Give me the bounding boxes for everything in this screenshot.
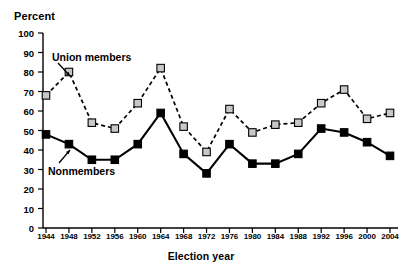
y-axis-tick-60: 60 <box>8 106 34 117</box>
chart-figure: Percent 0102030405060708090100 194419481… <box>0 0 402 274</box>
x-axis-tick-1952: 1952 <box>83 232 100 241</box>
data-point-nonmembers-2000 <box>363 138 371 146</box>
data-point-nonmembers-1960 <box>134 140 142 148</box>
data-point-union-members-1988 <box>295 119 303 127</box>
y-axis-title: Percent <box>14 10 55 22</box>
data-point-union-members-2000 <box>363 115 371 123</box>
x-axis-tick-1984: 1984 <box>267 232 284 241</box>
y-axis-tick-70: 70 <box>8 86 34 97</box>
x-axis-tick-1972: 1972 <box>198 232 215 241</box>
data-point-nonmembers-1976 <box>226 140 234 148</box>
data-point-nonmembers-1956 <box>111 156 119 164</box>
x-axis-tick-1980: 1980 <box>244 232 261 241</box>
y-axis-tick-40: 40 <box>8 145 34 156</box>
data-point-nonmembers-1964 <box>157 109 165 117</box>
y-axis-tick-10: 10 <box>8 203 34 214</box>
data-point-union-members-1972 <box>203 148 211 156</box>
y-axis-tick-30: 30 <box>8 164 34 175</box>
y-axis-tick-100: 100 <box>8 28 34 39</box>
data-point-nonmembers-1996 <box>340 129 348 137</box>
data-point-union-members-1996 <box>340 86 348 94</box>
x-axis-tick-1960: 1960 <box>129 232 146 241</box>
x-axis-tick-1956: 1956 <box>106 232 123 241</box>
annotation-union-members: Union members <box>52 51 131 63</box>
data-point-union-members-1992 <box>317 99 325 107</box>
data-point-union-members-1984 <box>272 121 280 128</box>
x-axis-tick-1996: 1996 <box>335 232 352 241</box>
data-point-nonmembers-2004 <box>386 152 394 160</box>
x-axis-tick-2000: 2000 <box>358 232 375 241</box>
x-axis-tick-1964: 1964 <box>152 232 169 241</box>
x-axis-tick-1948: 1948 <box>60 232 77 241</box>
y-axis-tick-90: 90 <box>8 47 34 58</box>
series-line-union-members <box>46 68 390 152</box>
x-axis-title: Election year <box>0 250 402 262</box>
data-point-nonmembers-1968 <box>180 150 188 158</box>
x-axis-tick-1992: 1992 <box>312 232 329 241</box>
data-point-nonmembers-1972 <box>203 170 211 178</box>
x-axis-tick-1988: 1988 <box>290 232 307 241</box>
data-point-nonmembers-1988 <box>295 150 303 158</box>
data-point-union-members-1960 <box>134 99 142 107</box>
data-point-union-members-1964 <box>157 64 165 72</box>
data-point-nonmembers-1992 <box>317 125 325 133</box>
data-point-union-members-2004 <box>386 109 394 117</box>
data-point-union-members-1944 <box>42 92 50 100</box>
data-point-nonmembers-1952 <box>88 156 96 164</box>
annotation-nonmembers: Nonmembers <box>48 165 115 177</box>
y-axis-tick-50: 50 <box>8 125 34 136</box>
data-point-nonmembers-1944 <box>42 131 50 139</box>
data-point-union-members-1968 <box>180 123 188 131</box>
data-point-union-members-1976 <box>226 105 234 113</box>
data-point-nonmembers-1980 <box>249 160 257 168</box>
x-axis-tick-1944: 1944 <box>37 232 54 241</box>
y-axis-tick-80: 80 <box>8 67 34 78</box>
data-point-union-members-1956 <box>111 125 119 133</box>
data-point-union-members-1952 <box>88 119 96 127</box>
y-axis-tick-0: 0 <box>8 223 34 234</box>
x-axis-tick-1976: 1976 <box>221 232 238 241</box>
data-point-union-members-1980 <box>249 129 257 137</box>
data-point-nonmembers-1948 <box>65 140 73 148</box>
data-point-nonmembers-1984 <box>272 160 280 168</box>
y-axis-tick-20: 20 <box>8 184 34 195</box>
x-axis-tick-1968: 1968 <box>175 232 192 241</box>
x-axis-tick-2004: 2004 <box>381 232 398 241</box>
